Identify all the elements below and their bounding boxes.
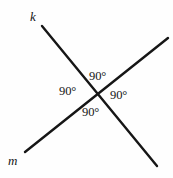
angle-label-bottom: 90° bbox=[82, 106, 99, 119]
line-label-m: m bbox=[8, 154, 18, 167]
line-label-k: k bbox=[30, 10, 36, 23]
angle-label-top: 90° bbox=[89, 70, 106, 83]
angle-label-left: 90° bbox=[59, 85, 76, 98]
lines-canvas bbox=[0, 0, 173, 178]
geometry-diagram: k m 90° 90° 90° 90° bbox=[0, 0, 173, 178]
angle-label-right: 90° bbox=[110, 89, 127, 102]
